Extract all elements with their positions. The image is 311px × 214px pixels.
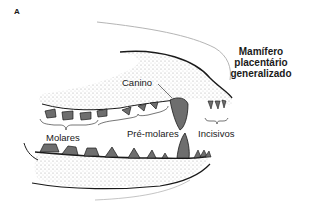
label-canine: Canino: [122, 78, 152, 88]
label-incisors: Incisivos: [198, 129, 234, 139]
jaw-illustration: [0, 0, 311, 214]
label-molars: Molares: [46, 133, 80, 143]
title-line-3: generalizado: [226, 68, 296, 79]
label-premolars: Pré-molares: [127, 129, 179, 139]
upper-canine: [170, 98, 188, 130]
upper-jaw: [39, 51, 232, 130]
title-line-1: Mamífero: [226, 46, 296, 57]
title-line-2: placentário: [226, 57, 296, 68]
figure-title: Mamífero placentário generalizado: [226, 46, 296, 79]
panel-letter: A: [14, 8, 20, 16]
incisors-bracket: [205, 118, 228, 124]
lower-jaw: [24, 133, 211, 200]
molars-bracket: [40, 119, 98, 130]
jaw-diagram: A Mamífero placentário generalizado Cani…: [0, 0, 311, 214]
